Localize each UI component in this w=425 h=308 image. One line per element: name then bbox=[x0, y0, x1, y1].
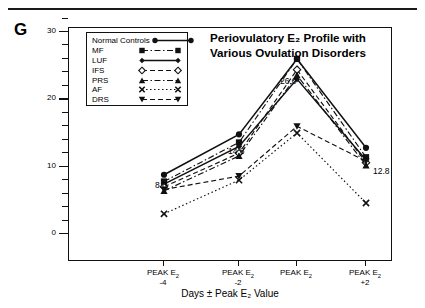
legend-item-sample bbox=[137, 85, 183, 94]
y-tick-minor bbox=[62, 18, 68, 19]
data-value-label: 12.8 bbox=[373, 166, 390, 176]
legend-item-label: MF bbox=[92, 46, 104, 55]
legend-item-mf[interactable]: MF bbox=[92, 46, 183, 56]
x-tick-label-line2: -4 bbox=[128, 278, 198, 288]
legend-item-label: DRS bbox=[92, 95, 109, 104]
legend-item-normal-controls[interactable]: Normal Controls bbox=[92, 36, 183, 46]
legend-item-sample bbox=[137, 95, 183, 104]
chart-title-line1: Periovulatory E₂ Profile with bbox=[210, 31, 366, 44]
y-tick-major bbox=[59, 98, 68, 99]
legend-item-sample bbox=[137, 76, 183, 85]
x-tick bbox=[365, 261, 366, 266]
x-tick-label-line1: PEAK E2 bbox=[330, 268, 400, 278]
data-point bbox=[363, 145, 369, 151]
x-tick-label: PEAK E2 bbox=[261, 268, 331, 278]
data-point bbox=[161, 211, 167, 217]
legend-item-af[interactable]: AF bbox=[92, 85, 183, 95]
series-luf bbox=[161, 76, 369, 187]
x-tick-label: PEAK E2+2 bbox=[330, 268, 400, 287]
data-point bbox=[363, 200, 369, 206]
legend-item-prs[interactable]: PRS bbox=[92, 75, 183, 85]
legend-item-label: LUF bbox=[92, 56, 107, 65]
legend-item-sample bbox=[137, 66, 183, 75]
chart-title: Periovulatory E₂ Profile with Various Ov… bbox=[190, 31, 386, 60]
y-tick-label: 10 bbox=[38, 161, 56, 170]
x-tick-label-line1: PEAK E2 bbox=[261, 268, 331, 278]
data-value-label: 14.8 bbox=[228, 146, 245, 156]
data-point bbox=[236, 131, 242, 137]
series-drs bbox=[160, 123, 369, 193]
data-point bbox=[161, 172, 167, 178]
legend-item-label: Normal Controls bbox=[92, 36, 150, 45]
legend-item-label: PRS bbox=[92, 76, 108, 85]
data-point bbox=[293, 123, 300, 130]
x-tick bbox=[163, 261, 164, 266]
legend-item-sample bbox=[137, 56, 183, 65]
panel-letter: G bbox=[14, 20, 28, 40]
legend-item-label: IFS bbox=[92, 66, 104, 75]
y-tick-major bbox=[59, 166, 68, 167]
legend-item-sample bbox=[150, 36, 196, 45]
data-value-label: 26.0 bbox=[280, 76, 297, 86]
x-tick-label-line2: -2 bbox=[203, 278, 273, 288]
data-value-label: 8.8 bbox=[155, 180, 167, 190]
x-tick-label: PEAK E2-4 bbox=[128, 268, 198, 287]
x-tick bbox=[238, 261, 239, 266]
legend-item-ifs[interactable]: IFS bbox=[92, 65, 183, 75]
y-tick-label: 0 bbox=[38, 228, 56, 237]
y-tick-label: 20 bbox=[38, 93, 56, 102]
x-tick-label-line2: +2 bbox=[330, 278, 400, 288]
y-tick-major bbox=[59, 233, 68, 234]
data-point bbox=[294, 130, 300, 136]
top-divider bbox=[8, 8, 417, 10]
chart-title-line2: Various Ovulation Disorders bbox=[210, 46, 366, 59]
y-tick-label: 30 bbox=[38, 26, 56, 35]
x-tick bbox=[296, 261, 297, 266]
legend-item-label: AF bbox=[92, 85, 102, 94]
x-axis-label: Days ± Peak E₂ Value bbox=[68, 288, 392, 299]
legend: Normal ControlsMFLUFIFSPRSAFDRS bbox=[86, 32, 188, 106]
x-tick-label-line1: PEAK E2 bbox=[128, 268, 198, 278]
y-tick-major bbox=[59, 31, 68, 32]
series-af bbox=[161, 130, 369, 217]
legend-item-luf[interactable]: LUF bbox=[92, 56, 183, 66]
legend-item-drs[interactable]: DRS bbox=[92, 95, 183, 105]
legend-item-sample bbox=[137, 46, 183, 55]
